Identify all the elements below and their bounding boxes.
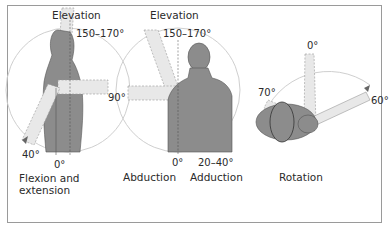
abduction-title-elevation: Elevation: [150, 9, 199, 21]
flexion-angle-extension: 40°: [22, 149, 40, 161]
flexion-title-elevation: Elevation: [52, 9, 101, 21]
abduction-adduction-figure: [116, 28, 240, 155]
rotation-angle-neutral: 0°: [307, 40, 318, 52]
rotation-angle-internal: 60°: [371, 95, 389, 107]
rotation-caption: Rotation: [279, 171, 323, 183]
flexion-angle-elevation: 150–170°: [76, 28, 124, 40]
abduction-angle-elevation: 150–170°: [163, 28, 211, 40]
flexion-caption-line2: extension: [19, 184, 70, 196]
abduction-angle-neutral: 0°: [172, 157, 183, 169]
abduction-caption: Abduction: [123, 171, 176, 183]
flexion-angle-horizontal: 90°: [108, 92, 126, 104]
adduction-angle: 20–40°: [198, 157, 233, 169]
flexion-angle-neutral: 0°: [54, 159, 65, 171]
rotation-angle-external: 70°: [258, 87, 276, 99]
flexion-caption-line1: Flexion and: [19, 172, 80, 184]
adduction-caption: Adduction: [190, 171, 243, 183]
